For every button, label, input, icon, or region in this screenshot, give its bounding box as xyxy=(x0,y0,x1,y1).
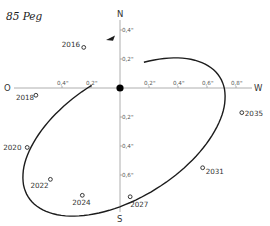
south-label: S xyxy=(117,214,122,224)
y-tick-label: 0,6" xyxy=(122,172,134,178)
year-label-2027: 2027 xyxy=(130,200,148,209)
orbit-position-2018 xyxy=(34,93,38,97)
year-label-2035: 2035 xyxy=(245,109,263,118)
x-tick-label: 0,2" xyxy=(86,80,98,86)
diagram-title: 85 Peg xyxy=(6,10,43,22)
y-tick-label: 0,2" xyxy=(122,114,134,120)
year-label-2016: 2016 xyxy=(62,40,81,49)
orbit-position-2024 xyxy=(80,193,84,197)
north-label: N xyxy=(117,9,123,19)
orbit-position-2031 xyxy=(201,166,205,170)
motion-arrow xyxy=(106,36,115,41)
orbit-position-2022 xyxy=(49,177,53,181)
x-tick-label: 0,4" xyxy=(57,80,69,86)
x-tick-label: 0,4" xyxy=(173,80,185,86)
x-tick-label: 0,2" xyxy=(144,80,156,86)
west-label: W xyxy=(254,83,263,93)
x-tick-label: 0,8" xyxy=(231,80,243,86)
orbit-position-2016 xyxy=(82,46,86,50)
arrow-head-icon xyxy=(106,36,115,41)
orbit-position-2035 xyxy=(240,111,244,115)
y-tick-label: 0,4" xyxy=(122,27,134,33)
primary-star xyxy=(116,84,123,91)
orbit-ellipse xyxy=(23,58,225,216)
year-label-2031: 2031 xyxy=(206,167,224,176)
year-label-2018: 2018 xyxy=(16,93,35,102)
year-label-2020: 2020 xyxy=(3,143,22,152)
east-label: O xyxy=(4,83,11,93)
orbit-position-2020 xyxy=(25,146,29,150)
year-label-2024: 2024 xyxy=(72,198,91,207)
y-tick-label: 0,4" xyxy=(122,143,134,149)
y-tick-label: 0,2" xyxy=(122,56,134,62)
x-tick-label: 0,6" xyxy=(202,80,214,86)
year-label-2022: 2022 xyxy=(30,181,48,190)
orbit-diagram: 85 Peg N S O W 0,4"0,2"0,2"0,4"0,6"0,8"0… xyxy=(0,0,270,226)
orbit-position-2027 xyxy=(128,195,132,199)
